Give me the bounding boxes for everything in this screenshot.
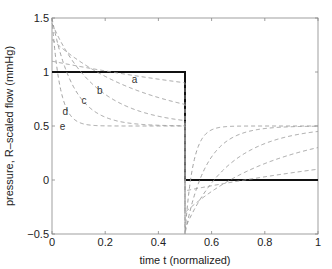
x-tick-label: 1 — [315, 236, 321, 248]
x-tick-label: 0.8 — [257, 236, 272, 248]
y-tick-label: −0.5 — [27, 228, 49, 240]
curve-label-e: e — [60, 121, 66, 132]
curve-label-c: c — [81, 95, 86, 106]
x-tick-label: 0 — [49, 236, 55, 248]
curve-label-a: a — [132, 74, 138, 85]
chart: 00.20.40.60.81−0.500.511.5 abcde time t … — [0, 0, 332, 269]
curve-label-b: b — [97, 85, 103, 96]
y-tick-label: 1.5 — [34, 12, 49, 24]
y-tick-label: 0 — [43, 174, 49, 186]
x-tick-label: 0.4 — [151, 236, 166, 248]
curve-label-d: d — [63, 106, 69, 117]
x-axis-label: time t (normalized) — [139, 254, 230, 266]
y-axis-label: pressure, R–scaled flow (mmHg) — [3, 46, 15, 206]
y-tick-label: 0.5 — [34, 120, 49, 132]
y-tick-label: 1 — [43, 66, 49, 78]
x-tick-label: 0.2 — [98, 236, 113, 248]
x-tick-label: 0.6 — [204, 236, 219, 248]
